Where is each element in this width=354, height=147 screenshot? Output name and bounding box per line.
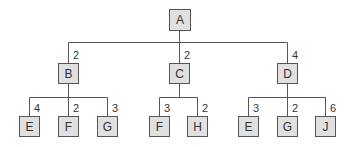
edge-weight-d-j: 6 [330,102,336,114]
node-c: C [169,63,190,84]
node-b: B [58,63,79,84]
node-c-f: F [149,116,170,137]
edge-weight-b-f: 2 [73,102,79,114]
edge-weight-d-e: 3 [253,102,259,114]
edge-weight-d: 4 [292,49,298,61]
node-d-g: G [277,116,298,137]
node-a: A [169,9,191,31]
edge-weight-b-g: 3 [112,102,118,114]
edge-weight-c-h: 2 [202,102,208,114]
edge-weight-b: 2 [73,49,79,61]
node-b-e: E [19,116,40,137]
node-d-e: E [238,116,259,137]
node-d: D [277,63,298,84]
node-b-f: F [58,116,79,137]
node-b-g: G [97,116,118,137]
edge-weight-d-g: 2 [292,102,298,114]
node-d-j: J [315,116,336,137]
edge-weight-c: 2 [184,49,190,61]
edge-weight-b-e: 4 [34,102,40,114]
node-c-h: H [187,116,208,137]
edge-weight-c-f: 3 [164,102,170,114]
